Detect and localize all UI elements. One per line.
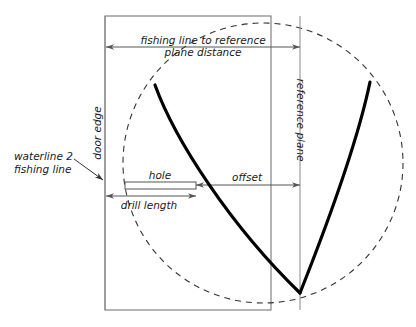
waterline-label-line1: waterline 2 — [14, 150, 73, 162]
waterline-leader-arrow — [74, 159, 103, 180]
reference-plane-label: reference plane — [295, 78, 307, 161]
diagram-canvas: fishing line to reference plane distance… — [0, 0, 416, 327]
fishing-line-curve-right — [300, 82, 370, 293]
hole-rectangle — [125, 182, 196, 189]
waterline-label-line2: fishing line — [14, 163, 71, 175]
door-edge-label: door edge — [91, 106, 103, 159]
top-dimension-label-line1: fishing line to reference — [140, 34, 265, 46]
swing-arc-circle — [123, 23, 403, 303]
drill-length-label: drill length — [121, 199, 178, 211]
offset-label: offset — [232, 171, 263, 183]
hole-label: hole — [149, 169, 171, 181]
technical-diagram: fishing line to reference plane distance… — [0, 0, 416, 327]
top-dimension-label-line2: plane distance — [164, 46, 242, 58]
door-rectangle — [105, 16, 271, 310]
